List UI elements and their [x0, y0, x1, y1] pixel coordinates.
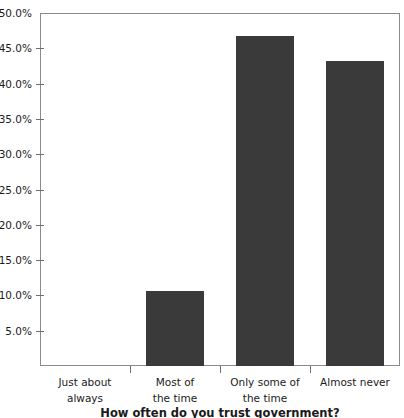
x-category-label-line: the time [130, 390, 220, 406]
y-tick-label-4: 30.0% [0, 149, 32, 160]
bar-1[interactable] [146, 291, 204, 366]
x-category-label-line: Almost never [310, 374, 400, 390]
x-category-label-0: Just aboutalways [40, 374, 130, 406]
x-axis-category-labels: Just aboutalwaysMost ofthe timeOnly some… [40, 374, 404, 410]
bars-layer [40, 13, 400, 366]
x-tick-mark-1 [130, 366, 131, 373]
bar-3[interactable] [326, 61, 384, 366]
x-category-label-line: Most of [130, 374, 220, 390]
y-tick-label-1: 45.0% [0, 43, 32, 54]
y-tick-label-5: 25.0% [0, 184, 32, 195]
x-category-label-line: the time [220, 390, 310, 406]
x-tick-mark-2 [220, 366, 221, 373]
y-tick-label-6: 20.0% [0, 220, 32, 231]
chart-title-clipped [40, 0, 400, 3]
y-axis: 50.0%45.0%40.0%35.0%30.0%25.0%20.0%15.0%… [0, 0, 40, 418]
x-category-label-1: Most ofthe time [130, 374, 220, 406]
bar-chart-figure: 50.0%45.0%40.0%35.0%30.0%25.0%20.0%15.0%… [0, 0, 404, 418]
x-category-label-line: Just about [40, 374, 130, 390]
x-category-label-line: Only some of [220, 374, 310, 390]
x-category-label-line: always [40, 390, 130, 406]
x-tick-mark-3 [310, 366, 311, 373]
y-tick-label-8: 10.0% [0, 290, 32, 301]
bar-2[interactable] [236, 36, 294, 366]
y-tick-label-0: 50.0% [0, 8, 32, 19]
y-tick-label-9: 5.0% [5, 325, 32, 336]
x-axis-title: How often do you trust government? [40, 406, 400, 418]
y-tick-label-2: 40.0% [0, 78, 32, 89]
x-category-label-2: Only some ofthe time [220, 374, 310, 406]
y-tick-label-7: 15.0% [0, 255, 32, 266]
x-category-label-3: Almost never [310, 374, 400, 390]
y-tick-label-3: 35.0% [0, 114, 32, 125]
